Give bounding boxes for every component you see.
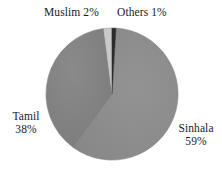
pie-label-others-text: Others 1% [117, 6, 167, 19]
pie-label-others: Others 1% [117, 6, 167, 19]
pie-label-tamil-name: Tamil [2, 110, 50, 123]
pie-label-tamil: Tamil 38% [2, 110, 50, 136]
pie-label-sinhala-name: Sinhala [170, 122, 222, 135]
pie-chart: Muslim 2% Others 1% Tamil 38% Sinhala 59… [0, 0, 222, 171]
pie-label-sinhala-value: 59% [170, 135, 222, 148]
pie-label-muslim-text: Muslim 2% [44, 6, 99, 19]
pie-label-tamil-value: 38% [2, 123, 50, 136]
pie-label-sinhala: Sinhala 59% [170, 122, 222, 148]
pie-label-muslim: Muslim 2% [44, 6, 99, 19]
